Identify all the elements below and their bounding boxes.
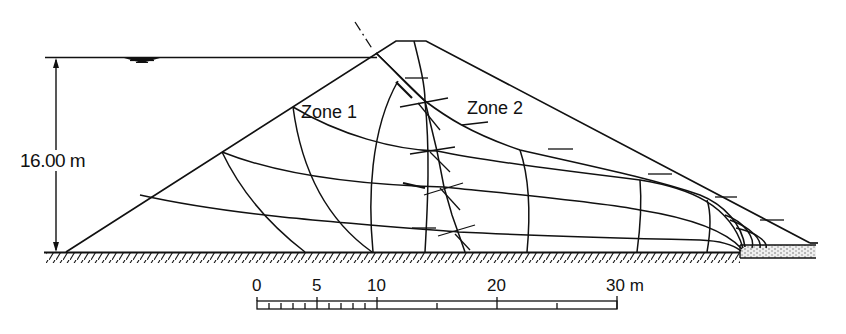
zone-1-label: Zone 1	[301, 103, 357, 121]
scale-tick-30: 30 m	[606, 277, 644, 294]
toe-drain	[740, 245, 816, 258]
zone-2-label: Zone 2	[467, 99, 523, 117]
scale-tick-0: 0	[252, 277, 261, 294]
refraction-marks	[396, 78, 475, 250]
height-dimension-label: 16.00 m	[20, 150, 85, 171]
scale-tick-10: 10	[367, 277, 386, 294]
scale-tick-5: 5	[312, 277, 321, 294]
reservoir-water-level	[45, 58, 377, 64]
flow-net-diagram	[0, 0, 846, 334]
scale-bar	[257, 296, 617, 309]
dam-outline	[66, 41, 818, 252]
water-surface-icon	[124, 58, 160, 63]
flow-lines	[140, 107, 743, 251]
scale-tick-20: 20	[487, 277, 506, 294]
phreatic-line	[376, 53, 745, 247]
impermeable-foundation	[44, 253, 740, 264]
equipotential-lines	[222, 41, 766, 252]
downstream-seepage-marks	[462, 122, 784, 220]
